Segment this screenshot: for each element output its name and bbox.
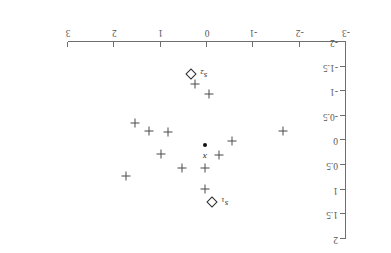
x-tick xyxy=(206,42,207,47)
point-label-s1: s1 xyxy=(221,196,228,208)
plus-marker xyxy=(279,126,288,135)
plus-marker xyxy=(156,150,165,159)
y-tick xyxy=(340,164,345,165)
scatter-plot: 3210-1-2-3 -2-1.5-1-0.500.511.52 s2s1x xyxy=(0,0,391,253)
plus-marker xyxy=(214,151,223,160)
y-tick-label: -0.5 xyxy=(323,111,338,121)
plus-marker xyxy=(200,184,209,193)
x-axis-line xyxy=(68,41,346,42)
x-tick-label: 1 xyxy=(158,28,163,38)
x-tick-label: 3 xyxy=(66,28,71,38)
x-tick xyxy=(113,42,114,47)
plus-marker xyxy=(205,89,214,98)
plus-marker xyxy=(121,171,130,180)
plus-marker xyxy=(163,127,172,136)
y-tick xyxy=(340,41,345,42)
x-tick xyxy=(67,42,68,47)
y-tick-label: 2 xyxy=(333,234,338,244)
y-tick xyxy=(340,90,345,91)
y-tick xyxy=(340,213,345,214)
x-tick-label: 2 xyxy=(112,28,117,38)
x-tick-label: -2 xyxy=(296,28,304,38)
y-tick-label: -1 xyxy=(330,87,338,97)
plus-marker xyxy=(145,126,154,135)
dot-marker xyxy=(203,143,207,147)
plus-marker xyxy=(177,163,186,172)
plus-marker xyxy=(131,119,140,128)
y-tick-label: 1.5 xyxy=(326,210,338,220)
diamond-marker xyxy=(206,196,217,207)
y-tick-label: 0.5 xyxy=(326,160,338,170)
plus-marker xyxy=(200,163,209,172)
y-tick-label: 1 xyxy=(333,185,338,195)
diamond-marker xyxy=(185,68,196,79)
y-tick xyxy=(340,189,345,190)
x-tick xyxy=(252,42,253,47)
x-tick-label: -3 xyxy=(342,28,350,38)
x-tick-label: -1 xyxy=(249,28,257,38)
x-tick xyxy=(345,42,346,47)
y-tick xyxy=(340,66,345,67)
y-tick-label: 0 xyxy=(333,136,338,146)
x-tick xyxy=(160,42,161,47)
plus-marker xyxy=(191,79,200,88)
point-label-s2: s2 xyxy=(200,68,207,80)
y-tick-label: -1.5 xyxy=(323,62,338,72)
y-tick xyxy=(340,140,345,141)
y-axis-line xyxy=(345,41,346,239)
x-tick xyxy=(299,42,300,47)
x-tick-label: 0 xyxy=(205,28,210,38)
y-tick-label: -2 xyxy=(330,37,338,47)
y-tick xyxy=(340,115,345,116)
point-label-x: x xyxy=(203,152,207,161)
plus-marker xyxy=(228,137,237,146)
y-tick xyxy=(340,238,345,239)
